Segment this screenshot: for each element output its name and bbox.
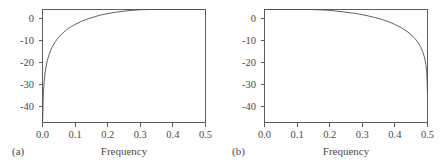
y-tick-label: -10 xyxy=(242,35,256,46)
panel-b-plot: 0 -10 -20 -30 -40 0.0 0.1 0.2 0.3 0.4 0.… xyxy=(222,0,443,164)
y-tick-label: 0 xyxy=(251,13,256,24)
y-tick-label: -20 xyxy=(242,57,256,68)
x-tick-label: 0.3 xyxy=(134,129,147,140)
y-tick-label: -30 xyxy=(242,79,256,90)
spectrum-curve xyxy=(43,10,206,121)
y-tick-label: -40 xyxy=(242,101,256,112)
x-tick-label: 0.1 xyxy=(291,129,304,140)
y-tick-label: -10 xyxy=(20,35,34,46)
y-tick-label: 0 xyxy=(29,13,34,24)
panel-letter: (a) xyxy=(12,145,25,158)
panel-a-plot: 0 -10 -20 -30 -40 0.0 0.1 0.2 0.3 0.4 0.… xyxy=(0,0,221,164)
figure-container: 0 -10 -20 -30 -40 0.0 0.1 0.2 0.3 0.4 0.… xyxy=(0,0,443,164)
y-axis-ticks-a xyxy=(39,19,43,107)
panel-letter: (b) xyxy=(232,145,245,158)
x-axis-ticks-b xyxy=(265,123,428,127)
y-tick-label: -20 xyxy=(20,57,34,68)
x-axis-title: Frequency xyxy=(323,145,370,157)
panel-a: 0 -10 -20 -30 -40 0.0 0.1 0.2 0.3 0.4 0.… xyxy=(0,0,221,164)
plot-frame-a xyxy=(43,10,206,123)
y-axis-ticks-b xyxy=(261,19,265,107)
x-tick-label: 0.5 xyxy=(421,129,434,140)
spectrum-curve xyxy=(265,10,428,91)
x-tick-label: 0.0 xyxy=(36,129,49,140)
x-axis-ticks-a xyxy=(43,123,206,127)
x-tick-label: 0.1 xyxy=(69,129,82,140)
x-tick-label: 0.3 xyxy=(356,129,369,140)
plot-frame-b xyxy=(265,10,428,123)
x-tick-label: 0.4 xyxy=(166,129,180,140)
x-tick-label: 0.0 xyxy=(258,129,271,140)
y-tick-label: -30 xyxy=(20,79,34,90)
x-tick-label: 0.2 xyxy=(101,129,114,140)
x-tick-label: 0.4 xyxy=(388,129,402,140)
panel-b: 0 -10 -20 -30 -40 0.0 0.1 0.2 0.3 0.4 0.… xyxy=(222,0,443,164)
x-tick-label: 0.2 xyxy=(323,129,336,140)
x-tick-label: 0.5 xyxy=(199,129,212,140)
y-tick-label: -40 xyxy=(20,101,34,112)
x-axis-title: Frequency xyxy=(101,145,148,157)
